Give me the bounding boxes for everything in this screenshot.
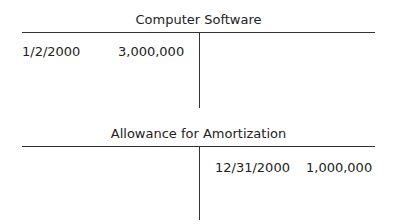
credit-amount: 1,000,000 — [306, 160, 372, 175]
t-account-vertical-rule — [199, 32, 200, 108]
account-title: Allowance for Amortization — [22, 126, 375, 141]
debit-amount: 3,000,000 — [118, 44, 184, 59]
credit-date: 12/31/2000 — [215, 160, 290, 175]
debit-date: 1/2/2000 — [22, 44, 80, 59]
t-account-vertical-rule — [199, 146, 200, 220]
account-title: Computer Software — [22, 12, 375, 27]
